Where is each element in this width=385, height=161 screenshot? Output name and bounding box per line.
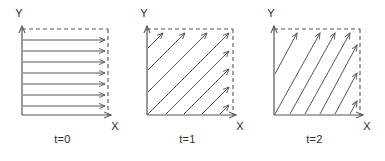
field-arrow <box>148 33 163 48</box>
panel-t2: Y X t=2 <box>252 0 377 161</box>
panel-t1-diagram: Y X <box>125 0 250 135</box>
field-arrows <box>148 33 229 114</box>
y-axis-label: Y <box>140 7 148 19</box>
panel-caption: t=2 <box>252 133 377 145</box>
x-axis-label: X <box>363 120 371 132</box>
y-axis-label: Y <box>15 7 23 19</box>
y-axis-label: Y <box>267 7 275 19</box>
field-arrow <box>148 33 207 92</box>
field-arrow <box>148 33 185 70</box>
field-arrow <box>275 33 320 114</box>
field-arrow <box>148 33 229 114</box>
panel-t2-diagram: Y X <box>252 0 377 135</box>
field-arrows <box>23 40 105 106</box>
panel-caption: t=1 <box>125 133 250 145</box>
panel-t0-diagram: Y X <box>0 0 125 135</box>
field-arrow <box>275 33 297 74</box>
field-arrow <box>320 45 357 114</box>
panel-t0: Y X t=0 <box>0 0 125 161</box>
field-arrow <box>305 33 350 114</box>
vector-field-figure: Y X t=0 <box>0 0 385 161</box>
field-arrow <box>220 105 229 114</box>
field-arrow <box>184 69 229 114</box>
panel-caption: t=0 <box>0 133 125 145</box>
panel-t1: Y X t=1 <box>125 0 250 161</box>
x-axis-label: X <box>111 120 119 132</box>
field-arrow <box>202 87 229 114</box>
field-arrow <box>166 51 229 114</box>
field-arrow <box>290 33 335 114</box>
field-arrow <box>350 101 357 114</box>
field-arrows <box>275 33 357 114</box>
x-axis-label: X <box>236 120 244 132</box>
